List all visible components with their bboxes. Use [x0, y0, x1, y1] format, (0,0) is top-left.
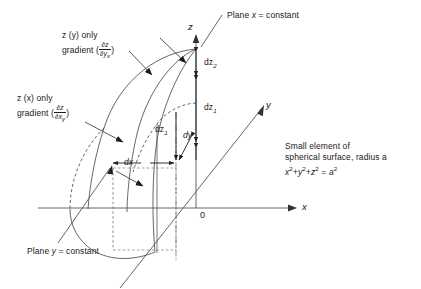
- gradient-y-denominator: ∂yx: [99, 50, 111, 61]
- dy-text: dy: [183, 130, 192, 140]
- grad-y-leader: [129, 51, 152, 75]
- gradient-x-suffix: ): [66, 108, 69, 118]
- plane-x-label: Plane x = constant: [227, 10, 299, 21]
- axis-label-y: y: [266, 99, 271, 110]
- eq-a-exp: 2: [334, 165, 338, 172]
- dz1-right-text: dz1: [204, 102, 217, 112]
- dz1-right-sub: 1: [213, 107, 217, 114]
- gradient-x-denominator: ∂xy: [54, 113, 66, 124]
- dz2-text: dz2: [204, 57, 217, 67]
- gradient-y-den-sub: x: [107, 52, 110, 59]
- gradient-y-prefix: gradient (: [62, 45, 99, 55]
- axis-y-text: y: [266, 99, 271, 110]
- axis-label-x: x: [302, 201, 307, 212]
- dz1-mid-label: dz1: [155, 124, 168, 138]
- gradient-y-line1: z (y) only: [62, 30, 114, 41]
- dx-text: dx: [124, 157, 133, 167]
- plane-x-leader: [201, 15, 222, 47]
- axis-x-text: x: [302, 201, 307, 212]
- gradient-y-numerator: ∂z: [99, 41, 111, 51]
- gradient-x-numerator: ∂z: [54, 104, 66, 114]
- dx-label: dx: [124, 157, 133, 168]
- dy-label: dy: [183, 130, 192, 141]
- sphere-note-equation: x2+y2+z2 = a2: [285, 163, 387, 178]
- dz2-main: dz: [204, 57, 213, 67]
- eq-equals: =: [319, 167, 329, 177]
- grad-x-leader: [85, 122, 123, 142]
- dz1-mid-sub: 1: [164, 129, 168, 136]
- plane-y-leader: [58, 165, 113, 243]
- grad-y-leader-2: [160, 38, 186, 63]
- sphere-note-line2: spherical surface, radius a: [285, 152, 387, 163]
- dz2-sub: 2: [213, 62, 217, 69]
- gradient-y-line2: gradient (∂z∂yx): [62, 41, 114, 61]
- gradient-x-prefix: gradient (: [17, 108, 54, 118]
- origin-label: 0: [200, 210, 205, 221]
- axis-label-z: z: [188, 21, 193, 32]
- dz2-label: dz2: [204, 57, 217, 71]
- sphere-note-line1: Small element of: [285, 141, 387, 152]
- plane-y-label: Plane y = constant: [27, 246, 99, 257]
- gradient-y-suffix: ): [111, 45, 114, 55]
- gradient-x-label: z (x) only gradient (∂z∂xy): [17, 93, 69, 124]
- gradient-x-line2: gradient (∂z∂xy): [17, 104, 69, 124]
- gradient-x-line1: z (x) only: [17, 93, 69, 104]
- dz1-mid-text: dz1: [155, 124, 168, 134]
- plane-y-text: Plane y = constant: [27, 246, 99, 256]
- gradient-y-label: z (y) only gradient (∂z∂yx): [62, 30, 114, 61]
- sphere-note: Small element of spherical surface, radi…: [285, 141, 387, 178]
- dz1-right-label: dz1: [204, 102, 217, 116]
- axis-x: [38, 205, 297, 212]
- dz1-mid-main: dz: [155, 124, 164, 134]
- base-projection-rectangle: [113, 168, 176, 250]
- axis-z-text: z: [188, 21, 193, 32]
- dz1-right-main: dz: [204, 102, 213, 112]
- gradient-x-den-sub: y: [62, 115, 65, 122]
- plane-x-text: Plane x = constant: [227, 10, 299, 20]
- origin-text: 0: [200, 210, 205, 220]
- gradient-y-fraction: ∂z∂yx: [99, 41, 111, 61]
- gradient-x-fraction: ∂z∂xy: [54, 104, 66, 124]
- surface-element: [70, 49, 196, 259]
